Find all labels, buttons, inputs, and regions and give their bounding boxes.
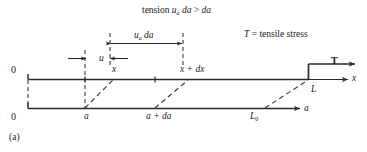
tensile-stress-definition-label: T = tensile stress bbox=[244, 30, 308, 40]
figure-linework bbox=[0, 0, 367, 152]
upper-axis-end-label: L bbox=[311, 85, 316, 95]
tensile-stress-equals: = bbox=[252, 29, 257, 39]
mapping-line-a-to-x bbox=[85, 80, 113, 108]
lower-tick-label-a: a bbox=[84, 112, 89, 122]
lower-axis-group bbox=[28, 103, 300, 109]
lower-axis-end-label: L0 bbox=[250, 112, 258, 123]
tension-condition-subscript: a bbox=[177, 10, 180, 16]
lower-tick-label-a-plus-da: a + da bbox=[146, 112, 171, 122]
stretched-element-differential: da bbox=[144, 30, 154, 40]
mapping-line-a-da-to-x-dx bbox=[155, 80, 188, 108]
tensile-stress-symbol: T bbox=[244, 29, 249, 39]
upper-tick-label-x: x bbox=[112, 65, 116, 75]
stretched-element-label: ua da bbox=[134, 31, 154, 42]
figure-caption: (a) bbox=[9, 133, 20, 143]
upper-axis-label: x bbox=[352, 74, 356, 84]
figure-container: tension ua da > da ua da T = tensile str… bbox=[0, 0, 367, 152]
stretched-element-subscript: a bbox=[139, 35, 142, 41]
displacement-label: u bbox=[99, 54, 104, 64]
tensile-stress-meaning: tensile stress bbox=[259, 29, 307, 39]
mapping-line-L0-to-L bbox=[265, 80, 308, 108]
mapping-diagonals-group bbox=[85, 80, 308, 108]
tension-condition-prefix: tension bbox=[142, 5, 169, 15]
tension-condition-differential: da bbox=[182, 5, 192, 15]
lower-axis-end-subscript: 0 bbox=[255, 116, 258, 122]
dashed-construction-group bbox=[28, 33, 183, 108]
tension-condition-relation: > bbox=[194, 5, 199, 15]
lower-axis-origin-label: 0 bbox=[11, 112, 16, 122]
lower-axis-label: a bbox=[304, 104, 309, 114]
applied-tension-label: T bbox=[331, 56, 338, 66]
tension-condition-label: tension ua da > da bbox=[142, 6, 211, 17]
upper-axis-origin-label: 0 bbox=[11, 65, 16, 75]
tension-condition-compared: da bbox=[202, 5, 212, 15]
upper-tick-label-x-plus-dx: x + dx bbox=[180, 65, 204, 75]
